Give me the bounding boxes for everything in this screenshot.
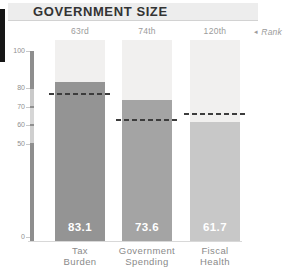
category-label-1: Government Spending [110, 246, 184, 267]
y-tick-label-0: 0 [7, 233, 25, 241]
bar-fill-1 [122, 100, 172, 241]
score-value-1: 73.6 [122, 221, 172, 235]
y-axis-band-3 [30, 88, 34, 107]
y-tick-label-70: 70 [7, 103, 25, 111]
y-axis-mark-80 [30, 87, 34, 89]
y-tick-label-100: 100 [7, 47, 25, 55]
rank-label-2: 120th [185, 26, 245, 37]
category-label-0: Tax Burden [43, 246, 117, 267]
y-tick-label-50: 50 [7, 140, 25, 148]
y-tick-mark-100 [26, 51, 30, 52]
score-value-0: 83.1 [55, 221, 105, 235]
rank-legend: ◂ Rank [240, 26, 282, 37]
rank-legend-label: Rank [261, 27, 282, 37]
y-tick-mark-80 [26, 88, 30, 89]
category-label-2: Fiscal Health [178, 246, 252, 267]
world-average-dash-0 [49, 93, 111, 95]
y-axis-band-4 [30, 51, 34, 88]
y-axis-mark-60 [30, 124, 34, 126]
y-tick-label-80: 80 [7, 84, 25, 92]
y-axis-band-1 [30, 125, 34, 144]
rank-label-1: 74th [117, 26, 177, 37]
chart-baseline [28, 241, 242, 242]
y-axis-band-0 [30, 144, 34, 241]
y-tick-label-60: 60 [7, 121, 25, 129]
government-size-panel: GOVERNMENT SIZE ◂ Rank 10080706050083.16… [0, 0, 284, 279]
rank-arrow-icon: ◂ [254, 28, 258, 35]
section-title: GOVERNMENT SIZE [8, 4, 168, 19]
world-average-dash-1 [116, 119, 178, 121]
rank-label-0: 63rd [50, 26, 110, 37]
y-axis-mark-50 [30, 143, 34, 145]
y-tick-mark-0 [26, 237, 30, 238]
score-value-2: 61.7 [190, 221, 240, 235]
section-header: GOVERNMENT SIZE [8, 3, 258, 21]
y-tick-mark-60 [26, 125, 30, 126]
left-accent-bar [0, 9, 5, 62]
bar-fill-0 [55, 82, 105, 241]
y-tick-mark-70 [26, 107, 30, 108]
y-tick-mark-50 [26, 144, 30, 145]
y-axis-band-2 [30, 107, 34, 126]
world-average-dash-2 [184, 113, 246, 115]
y-axis-mark-70 [30, 106, 34, 108]
